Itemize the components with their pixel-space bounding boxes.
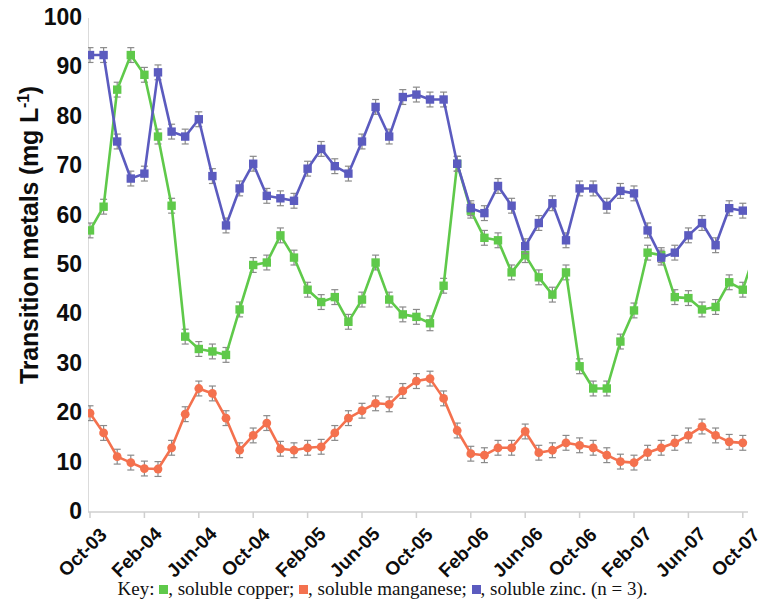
x-axis-tick-Feb-07: Feb-07 [598, 524, 656, 582]
data-point [494, 236, 502, 244]
data-point [290, 253, 298, 261]
data-point [562, 268, 570, 276]
data-point [480, 451, 489, 460]
data-point [439, 394, 448, 403]
data-point [167, 202, 175, 210]
data-point [630, 306, 638, 314]
data-point [602, 451, 611, 460]
figure-container: Transition metals (mg L-1) 0102030405060… [0, 0, 765, 612]
data-point [290, 446, 299, 455]
data-point [630, 458, 639, 467]
y-axis-tick-labels: 0102030405060708090100 [10, 0, 82, 530]
data-point [698, 219, 706, 227]
data-point [385, 400, 394, 409]
data-point [344, 318, 352, 326]
data-point [711, 431, 720, 440]
data-point [616, 337, 624, 345]
data-point [99, 429, 108, 438]
data-point [88, 51, 94, 59]
data-point [575, 362, 583, 370]
data-point [140, 464, 149, 473]
data-point [235, 446, 244, 455]
data-point [167, 443, 176, 452]
data-point [127, 174, 135, 182]
data-point [535, 273, 543, 281]
data-point [589, 184, 597, 192]
data-point [181, 132, 189, 140]
data-point [575, 441, 584, 450]
data-point [222, 414, 231, 423]
data-point [127, 51, 135, 59]
data-point [616, 457, 625, 466]
data-point [99, 51, 107, 59]
data-point [534, 448, 543, 457]
data-point [208, 347, 216, 355]
data-point [657, 253, 665, 261]
y-axis-tick-80: 80 [22, 105, 82, 128]
data-point [99, 203, 107, 211]
data-point [589, 384, 597, 392]
series-soluble-copper [88, 48, 748, 396]
y-axis-tick-20: 20 [22, 401, 82, 424]
data-point [725, 278, 733, 286]
data-point [154, 68, 162, 76]
data-point [276, 231, 284, 239]
data-point [113, 85, 121, 93]
data-point [344, 169, 352, 177]
data-point [507, 202, 515, 210]
data-point [426, 319, 434, 327]
x-axis-tick-Oct-03: Oct-03 [54, 524, 112, 582]
y-axis-tick-70: 70 [22, 154, 82, 177]
data-point [249, 431, 258, 440]
data-point [439, 95, 447, 103]
data-point [439, 282, 447, 290]
data-point [222, 351, 230, 359]
x-axis-tick-Jun-05: Jun-05 [326, 524, 384, 582]
data-point [412, 377, 421, 386]
x-axis-tick-Jun-07: Jun-07 [652, 524, 710, 582]
data-point [643, 448, 652, 457]
legend-label-0: , soluble copper; [168, 578, 299, 599]
x-axis-tick-Feb-05: Feb-05 [271, 524, 329, 582]
x-axis-tick-Feb-06: Feb-06 [434, 524, 492, 582]
data-point [290, 197, 298, 205]
data-point [616, 187, 624, 195]
data-point [399, 310, 407, 318]
data-point [181, 410, 190, 419]
data-point [671, 248, 679, 256]
y-axis-tick-50: 50 [22, 253, 82, 276]
y-axis-tick-100: 100 [22, 6, 82, 29]
y-axis-tick-90: 90 [22, 55, 82, 78]
data-point [194, 384, 203, 393]
data-point [670, 438, 679, 447]
series-soluble-manganese [88, 371, 747, 476]
data-point [684, 231, 692, 239]
data-point [684, 294, 692, 302]
x-axis-tick-Oct-05: Oct-05 [380, 524, 438, 582]
data-point [88, 226, 94, 234]
series-soluble-zinc [88, 48, 747, 265]
data-point [657, 443, 666, 452]
data-point [426, 374, 435, 383]
data-point [548, 290, 556, 298]
y-axis-tick-10: 10 [22, 451, 82, 474]
data-point [344, 414, 353, 423]
data-point [521, 242, 529, 250]
data-point [303, 164, 311, 172]
data-point [113, 452, 122, 461]
data-point [507, 268, 515, 276]
data-point [739, 286, 747, 294]
data-point [630, 189, 638, 197]
data-point [548, 199, 556, 207]
data-point [684, 431, 693, 440]
data-point [331, 293, 339, 301]
data-point [399, 93, 407, 101]
data-point [535, 219, 543, 227]
data-point [208, 389, 217, 398]
data-point [603, 202, 611, 210]
y-axis-tick-30: 30 [22, 352, 82, 375]
data-point [276, 444, 285, 453]
data-point [208, 172, 216, 180]
data-point [358, 137, 366, 145]
data-point [739, 206, 747, 214]
